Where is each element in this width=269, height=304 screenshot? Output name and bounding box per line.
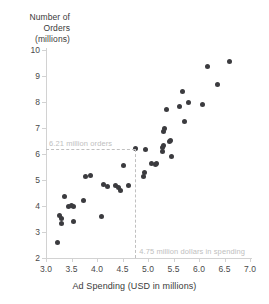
data-point [143,147,148,152]
data-point [200,102,205,107]
x-axis-title: Ad Spending (USD in millions) [0,281,269,291]
y-tick-mark [42,76,47,77]
x-tick-mark [250,258,251,262]
y-tick-mark [42,154,47,155]
y-tick-label: 2 [22,253,40,263]
scatter-chart: Number of Orders (millions) 2345678910 3… [0,0,269,304]
data-point [59,221,64,226]
x-tick-label: 7.0 [235,264,265,274]
x-tick-mark [46,258,47,262]
x-tick-mark [123,258,124,262]
x-tick-mark [97,258,98,262]
data-point [161,143,166,148]
data-point [71,219,76,224]
data-point [215,82,220,87]
x-tick-mark [72,258,73,262]
y-tick-label: 5 [22,175,40,185]
x-tick-mark [174,258,175,262]
y-tick-label: 3 [22,227,40,237]
data-point [81,198,86,203]
data-point [164,107,169,112]
y-axis-title-line-3: (millions) [2,34,70,45]
spending-annotation-label: 4.75 million dollars in spending [139,247,245,256]
x-tick-mark [199,258,200,262]
y-tick-mark [42,180,47,181]
data-point [71,204,76,209]
y-tick-label: 4 [22,201,40,211]
orders-guide-line [46,149,135,150]
data-point [121,163,126,168]
y-tick-mark [42,102,47,103]
y-tick-label: 7 [22,123,40,133]
data-point [118,188,123,193]
x-tick-mark [148,258,149,262]
y-axis-title: Number of Orders (millions) [2,12,70,45]
data-point [227,59,232,64]
data-point [105,184,110,189]
y-tick-label: 10 [22,45,40,55]
orders-annotation-label: 6.21 million orders [49,139,112,148]
data-point [186,100,191,105]
data-point [62,194,67,199]
y-tick-label: 6 [22,149,40,159]
y-tick-label: 9 [22,71,40,81]
spending-guide-line [135,149,136,258]
y-tick-mark [42,50,47,51]
data-point [99,214,104,219]
y-axis-title-line-1: Number of [2,12,70,23]
data-point [205,64,210,69]
data-point [88,173,93,178]
data-point [154,161,159,166]
y-tick-mark [42,128,47,129]
data-point [55,240,60,245]
data-point [142,170,147,175]
data-point [169,154,174,159]
data-point [168,138,173,143]
data-point [162,126,167,131]
x-tick-mark [225,258,226,262]
data-point [180,89,185,94]
data-point [177,104,182,109]
data-point [182,119,187,124]
y-axis-title-line-2: Orders [2,23,70,34]
y-tick-label: 8 [22,97,40,107]
y-tick-mark [42,232,47,233]
y-tick-mark [42,206,47,207]
data-point [126,183,131,188]
